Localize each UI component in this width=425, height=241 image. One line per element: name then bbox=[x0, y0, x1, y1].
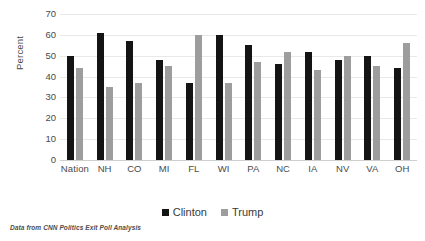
y-axis-tick-50: 50 bbox=[32, 51, 56, 61]
y-axis-tick-60: 60 bbox=[32, 30, 56, 40]
bar-trump-va bbox=[373, 66, 380, 160]
x-axis-label-pa: PA bbox=[239, 163, 269, 174]
bar-group-va bbox=[358, 0, 388, 186]
bar-trump-nation bbox=[76, 68, 83, 160]
bar-group-fl bbox=[179, 0, 209, 186]
y-axis-tick-labels: 706050403020100 bbox=[32, 0, 56, 186]
bar-clinton-ia bbox=[305, 52, 312, 160]
bar-trump-co bbox=[135, 83, 142, 160]
bar-group-ia bbox=[298, 0, 328, 186]
bar-trump-mi bbox=[165, 66, 172, 160]
legend-label-clinton: Clinton bbox=[173, 206, 207, 218]
y-axis-tick-10: 10 bbox=[32, 134, 56, 144]
y-axis-tick-70: 70 bbox=[32, 9, 56, 19]
bar-group-nation bbox=[60, 0, 90, 186]
bar-group-nh bbox=[90, 0, 120, 186]
bar-group-pa bbox=[239, 0, 269, 186]
x-axis-label-mi: MI bbox=[149, 163, 179, 174]
bar-group-mi bbox=[149, 0, 179, 186]
x-axis-category-labels: NationNHCOMIFLWIPANCIANVVAOH bbox=[60, 163, 417, 174]
bar-clinton-nation bbox=[67, 56, 74, 160]
legend-swatch-icon-clinton bbox=[162, 209, 169, 216]
x-axis-label-nh: NH bbox=[90, 163, 120, 174]
bar-group-wi bbox=[209, 0, 239, 186]
y-axis-tick-20: 20 bbox=[32, 113, 56, 123]
bar-clinton-wi bbox=[216, 35, 223, 160]
legend-swatch-icon-trump bbox=[221, 209, 228, 216]
bar-trump-nv bbox=[344, 56, 351, 160]
bar-group-nc bbox=[268, 0, 298, 186]
x-axis-label-fl: FL bbox=[179, 163, 209, 174]
legend-label-trump: Trump bbox=[232, 206, 263, 218]
bar-clinton-nh bbox=[97, 33, 104, 160]
bar-clinton-oh bbox=[394, 68, 401, 160]
bar-trump-fl bbox=[195, 35, 202, 160]
bar-group-nv bbox=[328, 0, 358, 186]
bar-trump-oh bbox=[403, 43, 410, 160]
bar-group-oh bbox=[387, 0, 417, 186]
bar-series-layer bbox=[60, 0, 417, 186]
chart-source-caption: Data from CNN Politics Exit Poll Analysi… bbox=[10, 224, 141, 231]
bar-trump-nh bbox=[106, 87, 113, 160]
y-axis-tick-30: 30 bbox=[32, 92, 56, 102]
y-axis-tick-40: 40 bbox=[32, 72, 56, 82]
bar-trump-pa bbox=[254, 62, 261, 160]
chart-legend: ClintonTrump bbox=[0, 206, 425, 218]
legend-item-trump[interactable]: Trump bbox=[221, 206, 263, 218]
legend-item-clinton[interactable]: Clinton bbox=[162, 206, 207, 218]
bar-trump-nc bbox=[284, 52, 291, 160]
bar-clinton-pa bbox=[245, 45, 252, 160]
y-axis-tick-0: 0 bbox=[32, 155, 56, 165]
bar-clinton-va bbox=[364, 56, 371, 160]
x-axis-label-nation: Nation bbox=[60, 163, 90, 174]
bar-group-co bbox=[120, 0, 150, 186]
x-axis-label-nv: NV bbox=[328, 163, 358, 174]
bar-clinton-fl bbox=[186, 83, 193, 160]
x-axis-label-va: VA bbox=[358, 163, 388, 174]
bar-clinton-nv bbox=[335, 60, 342, 160]
bar-trump-ia bbox=[314, 70, 321, 160]
plot-area: Percent 706050403020100 NationNHCOMIFLWI… bbox=[0, 0, 425, 186]
bar-clinton-mi bbox=[156, 60, 163, 160]
x-axis-label-wi: WI bbox=[209, 163, 239, 174]
bar-chart-figure: Percent 706050403020100 NationNHCOMIFLWI… bbox=[0, 0, 425, 241]
bar-trump-wi bbox=[225, 83, 232, 160]
x-axis-label-oh: OH bbox=[387, 163, 417, 174]
x-axis-label-co: CO bbox=[120, 163, 150, 174]
bar-clinton-co bbox=[126, 41, 133, 160]
x-axis-label-nc: NC bbox=[268, 163, 298, 174]
bar-clinton-nc bbox=[275, 64, 282, 160]
x-axis-label-ia: IA bbox=[298, 163, 328, 174]
y-axis-title: Percent bbox=[14, 56, 25, 70]
